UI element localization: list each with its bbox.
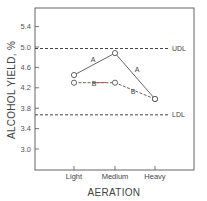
y-tick-label: 5.0	[21, 43, 31, 52]
data-point-b	[112, 80, 117, 85]
series-label: B	[131, 88, 136, 95]
series-label: A	[91, 56, 96, 63]
data-series: AABB	[71, 51, 157, 102]
data-point-b	[152, 96, 157, 101]
x-tick-label: Light	[66, 172, 83, 181]
line-chart: 5.45.04.64.23.83.43.0 LightMediumHeavy U…	[0, 0, 207, 201]
y-tick-label: 5.4	[21, 22, 31, 31]
data-point-a	[112, 51, 117, 56]
reference-lines: UDLLDL	[35, 45, 186, 118]
series-label: A	[135, 66, 140, 73]
x-tick-label: Heavy	[144, 172, 166, 181]
y-tick-label: 3.4	[21, 124, 31, 133]
x-axis-title: AERATION	[88, 187, 141, 198]
data-point-b	[71, 80, 76, 85]
ref-line-label: UDL	[172, 45, 186, 52]
y-tick-label: 4.6	[21, 63, 31, 72]
y-axis-title: ALCOHOL YIELD, %	[6, 41, 17, 139]
x-tick-label: Medium	[102, 172, 129, 181]
x-axis-ticks: LightMediumHeavy	[66, 166, 166, 181]
series-line-a	[74, 53, 155, 99]
series-label: B	[92, 80, 97, 87]
plot-frame	[35, 8, 194, 170]
data-point-a	[71, 72, 76, 77]
y-tick-label: 3.0	[21, 145, 31, 154]
y-tick-label: 3.8	[21, 104, 31, 113]
ref-line-label: LDL	[172, 111, 185, 118]
y-axis-ticks: 5.45.04.64.23.83.43.0	[21, 22, 39, 153]
y-tick-label: 4.2	[21, 83, 31, 92]
